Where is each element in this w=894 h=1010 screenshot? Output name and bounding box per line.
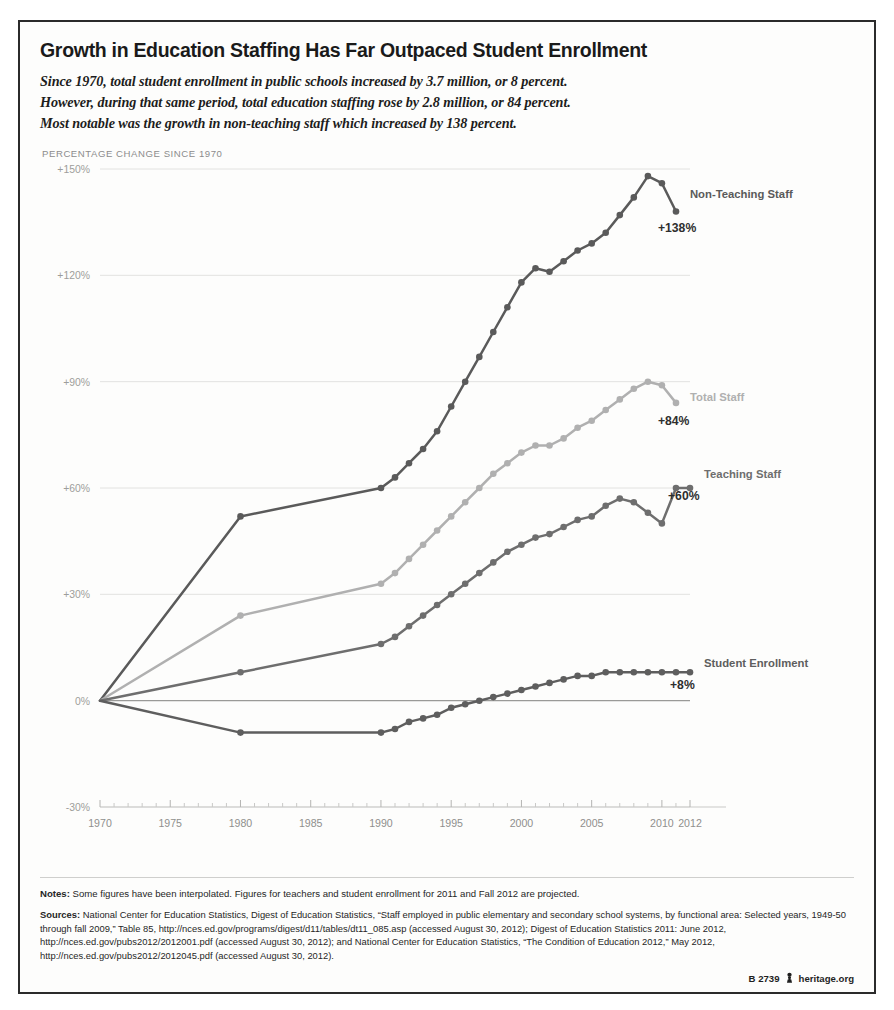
sources-label: Sources: bbox=[40, 909, 80, 920]
org-name: heritage.org bbox=[799, 973, 854, 984]
data-point bbox=[476, 570, 483, 577]
data-point bbox=[574, 517, 581, 524]
sources-text: National Center for Education Statistics… bbox=[40, 909, 846, 960]
data-point bbox=[378, 485, 385, 492]
data-point bbox=[448, 514, 455, 521]
data-point bbox=[659, 180, 666, 187]
data-point bbox=[378, 581, 385, 588]
series-value-label: +84% bbox=[658, 414, 690, 428]
y-axis-tick-label: +60% bbox=[63, 483, 90, 494]
data-point bbox=[645, 510, 652, 517]
sources-row: Sources: National Center for Education S… bbox=[40, 908, 854, 962]
subtitle-line-1: Since 1970, total student enrollment in … bbox=[40, 71, 854, 92]
data-point bbox=[602, 669, 609, 676]
data-point bbox=[420, 716, 427, 723]
data-point bbox=[602, 503, 609, 510]
series-layer bbox=[100, 173, 693, 736]
data-point bbox=[631, 669, 638, 676]
series-name-label: Total Staff bbox=[690, 391, 745, 403]
data-point bbox=[504, 304, 511, 311]
data-point bbox=[490, 694, 497, 701]
footer-notes: Notes: Some figures have been interpolat… bbox=[40, 877, 854, 984]
grid-layer bbox=[100, 169, 690, 807]
data-point bbox=[532, 684, 539, 691]
y-axis-tick-label: +120% bbox=[57, 271, 90, 282]
x-axis-tick-label: 1975 bbox=[158, 817, 182, 829]
y-axis-tick-label: +90% bbox=[63, 377, 90, 388]
data-point bbox=[392, 570, 399, 577]
notes-label: Notes: bbox=[40, 888, 70, 899]
data-point bbox=[532, 265, 539, 272]
data-point bbox=[462, 581, 469, 588]
data-point bbox=[504, 691, 511, 698]
data-point bbox=[532, 535, 539, 542]
data-point bbox=[476, 485, 483, 492]
data-point bbox=[434, 428, 441, 435]
data-point bbox=[392, 726, 399, 733]
data-point bbox=[631, 499, 638, 506]
data-point bbox=[476, 698, 483, 705]
notes-text: Some figures have been interpolated. Fig… bbox=[73, 888, 580, 899]
x-axis-tick-label: 2010 bbox=[650, 817, 674, 829]
data-point bbox=[617, 669, 624, 676]
data-point bbox=[574, 673, 581, 680]
credit-row: B 2739 heritage.org bbox=[40, 972, 854, 984]
data-point bbox=[237, 514, 244, 521]
data-point bbox=[546, 531, 553, 538]
data-point bbox=[659, 669, 666, 676]
x-axis-tick-label: 2012 bbox=[678, 817, 702, 829]
x-axis-tick-label: 1995 bbox=[439, 817, 463, 829]
data-point bbox=[504, 549, 511, 556]
data-point bbox=[617, 397, 624, 404]
y-axis-tick-label: +30% bbox=[63, 590, 90, 601]
data-point bbox=[448, 591, 455, 598]
data-point bbox=[392, 634, 399, 641]
data-point bbox=[532, 443, 539, 450]
y-axis-tick-label: 0% bbox=[75, 696, 90, 707]
data-point bbox=[673, 209, 680, 216]
x-axis-tick-label: 1985 bbox=[299, 817, 323, 829]
data-point bbox=[574, 248, 581, 255]
data-point bbox=[237, 669, 244, 676]
annotation-layer: -30%0%+30%+60%+90%+120%+150%197019751980… bbox=[57, 164, 808, 833]
data-point bbox=[645, 379, 652, 386]
data-point bbox=[378, 730, 385, 737]
data-point bbox=[420, 542, 427, 549]
chart-id: B 2739 bbox=[749, 973, 780, 984]
data-point bbox=[645, 669, 652, 676]
data-point bbox=[546, 269, 553, 276]
series-line bbox=[100, 673, 690, 733]
y-axis-caption: PERCENTAGE CHANGE SINCE 1970 bbox=[42, 148, 854, 159]
data-point bbox=[434, 528, 441, 535]
x-axis-tick-sublabel: (Fall) bbox=[680, 832, 701, 833]
series-name-label: Student Enrollment bbox=[704, 658, 808, 670]
subtitle-line-2: However, during that same period, total … bbox=[40, 92, 854, 113]
data-point bbox=[462, 499, 469, 506]
series-line bbox=[100, 177, 676, 702]
data-point bbox=[392, 475, 399, 482]
data-point bbox=[588, 673, 595, 680]
line-chart-svg: -30%0%+30%+60%+90%+120%+150%197019751980… bbox=[34, 161, 870, 833]
data-point bbox=[617, 212, 624, 219]
data-point bbox=[659, 521, 666, 528]
data-point bbox=[588, 514, 595, 521]
y-axis-tick-label: +150% bbox=[57, 164, 90, 175]
series-value-label: +8% bbox=[670, 679, 695, 693]
data-point bbox=[237, 730, 244, 737]
data-point bbox=[560, 436, 567, 443]
data-point bbox=[518, 450, 525, 457]
series-value-label: +138% bbox=[658, 221, 696, 235]
data-point bbox=[420, 613, 427, 620]
data-point bbox=[588, 418, 595, 425]
data-point bbox=[237, 613, 244, 620]
x-axis-tick-label: 2005 bbox=[580, 817, 604, 829]
data-point bbox=[462, 379, 469, 386]
data-point bbox=[645, 173, 652, 180]
data-point bbox=[406, 719, 413, 726]
data-point bbox=[448, 705, 455, 712]
x-axis-tick-label: 2000 bbox=[510, 817, 534, 829]
axis-layer bbox=[100, 800, 726, 807]
data-point bbox=[476, 354, 483, 361]
notes-row: Notes: Some figures have been interpolat… bbox=[40, 887, 854, 901]
data-point bbox=[490, 471, 497, 478]
